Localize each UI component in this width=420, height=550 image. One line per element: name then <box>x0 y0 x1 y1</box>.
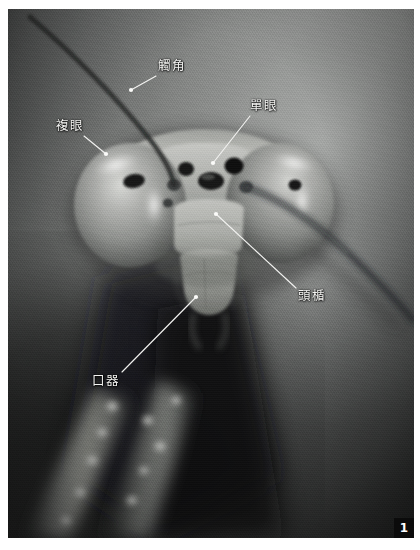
specimen-photograph: 觸角 複眼 單眼 頭楯 口器 1 <box>8 9 414 538</box>
annotation-label-antenna: 觸角 <box>158 60 185 73</box>
annotation-label-ocellus: 單眼 <box>250 100 277 113</box>
figure-root: 觸角 複眼 單眼 頭楯 口器 1 <box>0 0 420 550</box>
annotation-label-compound-eye: 複眼 <box>56 120 83 133</box>
photo-vignette <box>8 9 414 538</box>
figure-number-badge: 1 <box>394 518 414 538</box>
annotation-label-clypeus: 頭楯 <box>298 290 325 303</box>
annotation-label-mouthparts: 口器 <box>92 375 119 388</box>
